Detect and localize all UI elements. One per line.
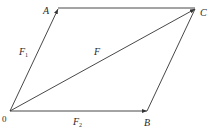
diagram-svg: A C B 0 F1 F F2 [0,0,211,138]
vector-label-f: F [93,46,101,57]
edge-bc [147,9,195,111]
point-label-b: B [144,117,150,128]
parallelogram-diagram: A C B 0 F1 F F2 [0,0,211,138]
point-label-c: C [200,7,207,18]
vector-f1 [10,9,58,111]
vector-f-resultant [10,9,195,111]
vector-label-f2: F2 [72,116,82,128]
vector-label-f1: F1 [18,46,28,58]
point-label-o: 0 [2,114,7,124]
point-label-a: A [42,5,50,16]
